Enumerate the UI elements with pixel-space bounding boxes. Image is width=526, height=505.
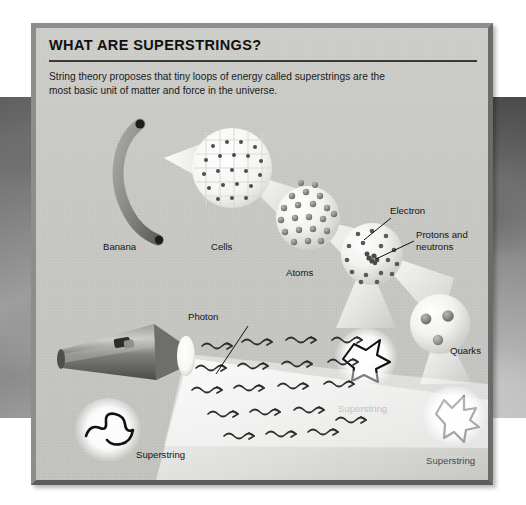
label-superstring-left: Superstring [136,449,185,460]
illustration-panel: WHAT ARE SUPERSTRINGS? String theory pro… [31,23,493,485]
superstring-diagram: Banana Cells [36,28,488,480]
cells-sphere-icon [192,128,272,208]
label-atoms: Atoms [286,267,313,278]
label-protons-neutrons-line1: Protons and [416,229,468,240]
label-electron: Electron [390,205,425,216]
banana-icon [118,119,163,244]
label-banana: Banana [103,241,137,252]
label-protons-neutrons-line2: neutrons [416,241,454,252]
label-cells: Cells [211,241,233,252]
atom-sphere-icon [341,223,403,285]
label-photon: Photon [188,311,218,322]
label-quarks: Quarks [450,345,481,356]
superstring-disc-left [74,398,142,466]
flashlight-icon [57,324,195,380]
